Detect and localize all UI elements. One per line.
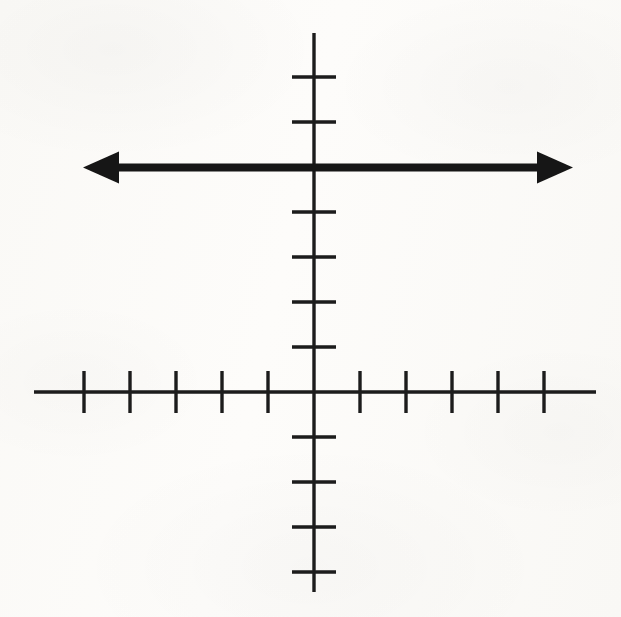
right-arrowhead-icon [537, 152, 573, 184]
left-arrowhead-icon [83, 152, 119, 184]
worksheet-figure: Coordinate Plane with Horizontal Line y … [0, 0, 621, 617]
graphed-line-group [83, 152, 573, 184]
y-axis-group [292, 33, 336, 592]
coordinate-plane-graph [0, 0, 621, 617]
